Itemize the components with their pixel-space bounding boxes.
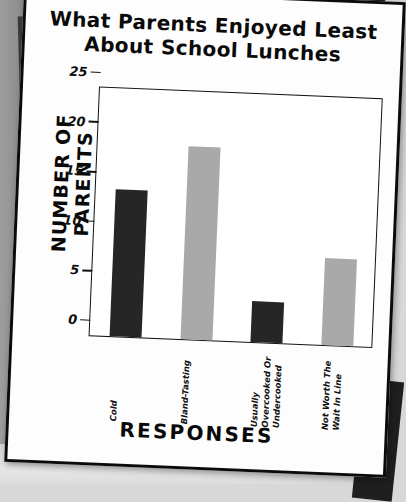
y-axis-tick: 20 bbox=[67, 113, 99, 129]
bar-0 bbox=[110, 189, 148, 337]
x-axis-category-label: Not Worth TheWait In Line bbox=[320, 360, 345, 430]
y-axis-tick-mark bbox=[80, 319, 90, 321]
y-axis-tick-mark bbox=[82, 270, 92, 272]
y-axis-tick: 5 bbox=[70, 262, 93, 278]
bar-2 bbox=[251, 301, 285, 343]
y-axis-tick: 0 bbox=[68, 312, 91, 328]
bar-1 bbox=[180, 146, 220, 341]
y-axis-tick: 15 bbox=[65, 163, 97, 179]
page-content: What Parents Enjoyed Least About School … bbox=[7, 0, 402, 475]
y-axis-tick: 25 bbox=[69, 64, 101, 80]
x-axis-category-label: Bland-Tasting bbox=[179, 360, 193, 425]
y-axis-tick-mark bbox=[84, 220, 94, 222]
y-axis-tick-label: 5 bbox=[70, 262, 83, 277]
y-axis-tick-label: 20 bbox=[67, 113, 89, 129]
x-axis-category-label: UsuallyOvercooked OrUndercooked bbox=[249, 356, 285, 428]
y-axis-tick-label: 15 bbox=[65, 163, 87, 179]
plot-area: 0510152025 bbox=[89, 86, 383, 348]
bar-3 bbox=[321, 258, 357, 347]
y-axis-tick-mark bbox=[91, 71, 101, 73]
plot-inner bbox=[90, 87, 382, 347]
y-axis-tick-label: 10 bbox=[63, 212, 85, 228]
x-axis-category-label-line: Undercooked bbox=[271, 357, 285, 428]
chart-title: What Parents Enjoyed Least About School … bbox=[24, 5, 402, 69]
printed-page: What Parents Enjoyed Least About School … bbox=[4, 0, 406, 478]
y-axis-tick-label: 25 bbox=[69, 64, 91, 80]
y-axis-tick-mark bbox=[88, 121, 98, 123]
x-axis-category-label-line: Bland-Tasting bbox=[179, 360, 193, 425]
y-axis-tick-mark bbox=[86, 170, 96, 172]
y-axis-tick: 10 bbox=[63, 212, 95, 228]
bars-layer bbox=[90, 87, 382, 347]
y-axis-tick-label: 0 bbox=[68, 312, 81, 327]
